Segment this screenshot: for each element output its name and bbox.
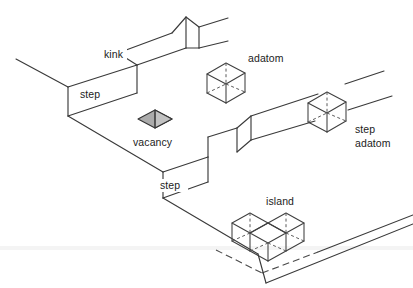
diagram-labels-layer: kink step vacancy adatom step adatom ste… <box>0 0 413 288</box>
label-island: island <box>266 195 294 207</box>
label-vacancy: vacancy <box>133 136 173 148</box>
label-kink: kink <box>104 48 124 60</box>
diagram-root: kink step vacancy adatom step adatom ste… <box>0 0 413 288</box>
label-step-upper: step <box>80 88 100 100</box>
label-step-lower: step <box>160 179 180 191</box>
label-adatom: adatom <box>248 52 284 64</box>
label-step-adatom-line2: adatom <box>355 137 391 149</box>
label-step-adatom-line1: step <box>355 123 375 135</box>
